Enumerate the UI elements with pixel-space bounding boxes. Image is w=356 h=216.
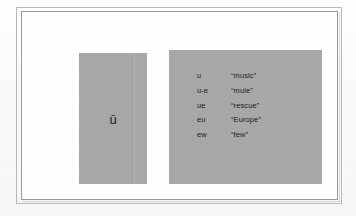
letter-panel-content: ū	[79, 53, 147, 184]
spelling-pattern: u	[169, 71, 231, 80]
spelling-pattern: u-e	[169, 86, 231, 95]
spelling-example: “Europe”	[231, 115, 261, 124]
spelling-pattern: ew	[169, 130, 231, 139]
spelling-example: “music”	[231, 71, 256, 80]
letter-panel: ū	[79, 53, 147, 184]
spelling-row: ue “rescue”	[169, 101, 322, 116]
scanned-page: ū u “music” u-e “mule” ue “rescue”	[0, 0, 356, 216]
spelling-pattern: eu	[169, 115, 231, 124]
inner-frame-border: ū u “music” u-e “mule” ue “rescue”	[21, 11, 338, 200]
spelling-example: “few”	[231, 130, 248, 139]
spelling-example: “rescue”	[231, 101, 259, 110]
frame-shadow-bottom	[22, 201, 340, 202]
spelling-row: ew “few”	[169, 130, 322, 145]
spelling-example: “mule”	[231, 86, 253, 95]
spelling-pattern: ue	[169, 101, 231, 110]
long-u-macron-letter: ū	[109, 113, 116, 126]
spelling-row: u “music”	[169, 71, 322, 86]
spelling-row: eu “Europe”	[169, 115, 322, 130]
spelling-row: u-e “mule”	[169, 86, 322, 101]
spelling-patterns-panel: u “music” u-e “mule” ue “rescue” eu “Eur…	[169, 50, 322, 184]
spelling-patterns-list: u “music” u-e “mule” ue “rescue” eu “Eur…	[169, 71, 322, 145]
frame-shadow-right	[339, 12, 340, 202]
